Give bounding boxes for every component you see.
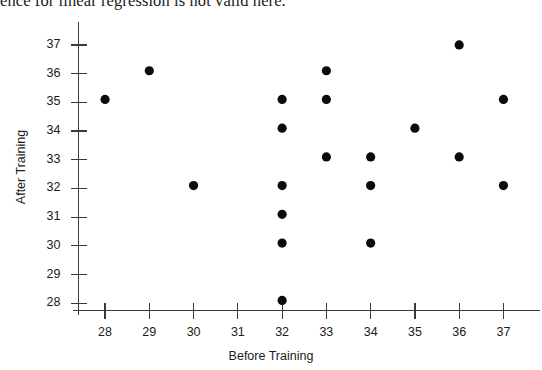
data-point [322,95,331,104]
data-point [366,181,375,190]
y-axis-tick-label: 32 [35,180,61,194]
y-axis-tick-label: 36 [35,66,61,80]
y-axis-tick-label: 29 [35,267,61,281]
data-point [322,66,331,75]
ticks-group [71,45,504,319]
y-axis-title: After Training [14,112,28,222]
data-point [322,152,331,161]
data-point [189,181,198,190]
data-point [499,95,508,104]
x-axis-tick-label: 31 [223,325,253,339]
x-axis-tick-label: 30 [179,325,209,339]
x-axis-tick-label: 28 [90,325,120,339]
data-point [278,210,287,219]
x-axis-tick-label: 37 [488,325,518,339]
y-axis-tick-label: 34 [35,123,61,137]
data-point [410,124,419,133]
data-point [366,152,375,161]
x-axis-tick-label: 29 [134,325,164,339]
y-axis-tick-label: 30 [35,238,61,252]
y-axis-tick-label: 37 [35,37,61,51]
y-axis-tick-label: 35 [35,94,61,108]
data-point [145,66,154,75]
x-axis-tick-label: 34 [356,325,386,339]
scatter-plot: 28293031323334353637 2829303132333435363… [0,0,542,370]
data-point [366,238,375,247]
y-axis-tick-label: 28 [35,295,61,309]
data-point [278,238,287,247]
data-point [278,95,287,104]
data-points-group [100,40,508,305]
y-axis-tick-label: 31 [35,209,61,223]
data-point [499,181,508,190]
data-point [278,181,287,190]
data-point [100,95,109,104]
x-axis-tick-label: 36 [444,325,474,339]
axes-group [73,22,541,315]
x-axis-title: Before Training [0,349,542,363]
data-point [278,124,287,133]
x-axis-tick-label: 33 [311,325,341,339]
data-point [278,296,287,305]
data-point [455,152,464,161]
y-axis-tick-label: 33 [35,152,61,166]
x-axis-tick-label: 35 [400,325,430,339]
plot-canvas [0,0,542,370]
x-axis-tick-label: 32 [267,325,297,339]
data-point [455,40,464,49]
